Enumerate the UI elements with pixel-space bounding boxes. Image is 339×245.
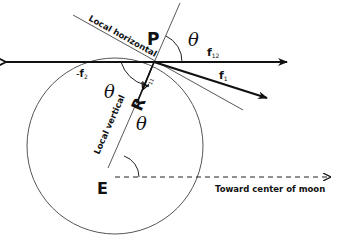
theta-left-label: θ xyxy=(104,81,115,102)
f12-label: f12 xyxy=(207,46,220,59)
moon-tidal-force-diagram: P E R θ θ θ Local horizontal Local verti… xyxy=(0,0,339,245)
f12-sub: 12 xyxy=(212,52,220,59)
neg-f2-sub: 2 xyxy=(84,73,88,80)
local-vertical-label: Local vertical xyxy=(92,93,127,156)
toward-moon-label: Toward center of moon xyxy=(215,184,325,194)
point-E-label: E xyxy=(97,179,108,198)
theta-top-label: θ xyxy=(188,29,199,50)
theta-bottom-label: θ xyxy=(136,113,147,134)
f11-sub: 11 xyxy=(147,77,155,85)
radius-R-label: R xyxy=(127,95,149,114)
body-circle xyxy=(27,58,203,234)
neg-f2-label: -f2 xyxy=(76,68,88,80)
angle-arc-top xyxy=(166,36,182,62)
f1-arrow xyxy=(154,62,267,98)
f1-sub: 1 xyxy=(224,75,228,82)
f1-label: f1 xyxy=(219,69,228,82)
angle-arc-bottom xyxy=(124,156,139,177)
